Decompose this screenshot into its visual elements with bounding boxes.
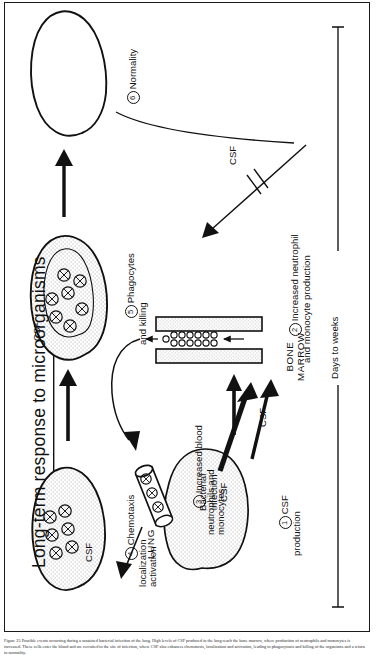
figure-caption: Figure 25 Possible events occurring duri… <box>4 638 366 655</box>
